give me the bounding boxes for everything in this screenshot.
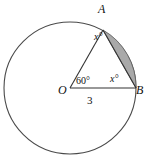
point-label-b: B bbox=[136, 84, 143, 96]
segment-ab bbox=[103, 30, 136, 88]
length-label-ob: 3 bbox=[87, 95, 93, 106]
angle-label-at-o: 60° bbox=[76, 76, 90, 86]
geometry-canvas bbox=[0, 0, 149, 157]
point-label-o: O bbox=[58, 84, 67, 96]
point-label-a: A bbox=[98, 3, 105, 15]
angle-label-at-b: x° bbox=[110, 74, 118, 84]
geometry-figure: A B O x° x° 60° 3 bbox=[0, 0, 149, 157]
angle-label-at-a: x° bbox=[94, 32, 102, 42]
